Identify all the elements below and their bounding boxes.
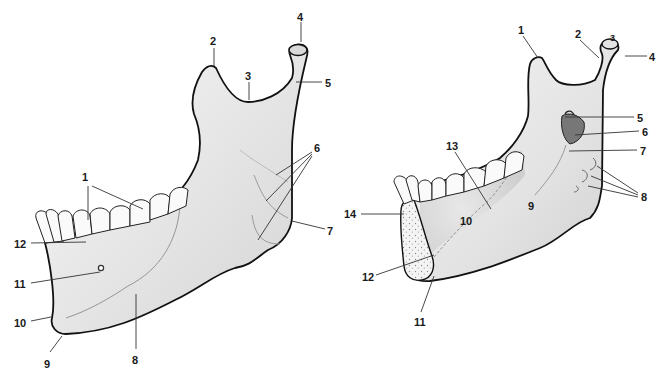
- lateral-label-3: 3: [245, 71, 251, 82]
- lateral-label-10: 10: [14, 318, 26, 329]
- lateral-label-6: 6: [314, 143, 320, 154]
- medial-label-7: 7: [640, 146, 646, 157]
- medial-view: [394, 39, 618, 281]
- medial-label-4: 4: [649, 52, 655, 63]
- lateral-label-9: 9: [44, 359, 50, 370]
- medial-label-14: 14: [344, 209, 356, 220]
- medial-label-8: 8: [641, 192, 647, 203]
- lateral-condyle: [289, 45, 307, 56]
- medial-label-1: 1: [518, 25, 524, 36]
- lateral-label-5: 5: [325, 78, 331, 89]
- lateral-view: [36, 44, 308, 334]
- lateral-label-1: 1: [82, 172, 88, 183]
- medial-label-6: 6: [642, 127, 648, 138]
- lateral-label-8: 8: [132, 355, 138, 366]
- lateral-label-7: 7: [327, 226, 333, 237]
- medial-label-5: 5: [637, 113, 643, 124]
- lateral-label-2: 2: [210, 36, 216, 47]
- medial-label-13: 13: [446, 141, 458, 152]
- diagram-artwork: [0, 0, 669, 376]
- medial-label-9: 9: [528, 201, 534, 212]
- lateral-label-4: 4: [297, 12, 303, 23]
- medial-label-10: 10: [460, 216, 472, 227]
- medial-label-2: 2: [575, 29, 581, 40]
- medial-label-3: 3: [610, 33, 615, 44]
- lateral-label-11: 11: [14, 279, 26, 290]
- mandible-diagram: 1 2 3 4 5 6 7 8 9 10 11 12 1 2 3 4 5 6 7…: [0, 0, 669, 376]
- mental-foramen: [98, 265, 103, 270]
- lateral-label-12: 12: [14, 239, 26, 250]
- medial-label-12: 12: [362, 272, 374, 283]
- medial-label-11: 11: [414, 317, 426, 328]
